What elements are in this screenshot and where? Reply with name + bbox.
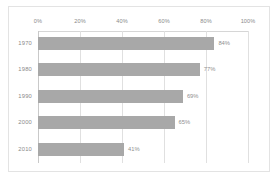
bar-2000 [38, 116, 175, 129]
chart-container: 0%20%40%60%80%100% 197084%198077%199069%… [8, 6, 270, 172]
bar-series: 197084%198077%199069%200065%201041% [38, 31, 248, 163]
x-tick-label: 20% [74, 18, 86, 24]
x-tick-label: 0% [34, 18, 42, 24]
bar-1990 [38, 90, 183, 103]
category-label-1980: 1980 [18, 63, 32, 76]
bar-1970 [38, 37, 214, 50]
plot-area: 0%20%40%60%80%100% 197084%198077%199069%… [38, 31, 248, 163]
bar-row: 198077% [38, 57, 248, 83]
bar-value-label-1980: 77% [200, 63, 216, 76]
bar-value-label-1970: 84% [214, 37, 230, 50]
bar-value-label-2000: 65% [175, 116, 191, 129]
x-tick-label: 40% [116, 18, 128, 24]
category-label-2010: 2010 [18, 143, 32, 156]
bar-1980 [38, 63, 200, 76]
bar-row: 201041% [38, 137, 248, 163]
bar-value-label-1990: 69% [183, 90, 199, 103]
gridline-100% [248, 31, 249, 163]
bar-value-label-2010: 41% [124, 143, 140, 156]
category-label-1990: 1990 [18, 90, 32, 103]
bar-row: 197084% [38, 31, 248, 57]
bar-row: 200065% [38, 110, 248, 136]
bar-row: 199069% [38, 84, 248, 110]
bar-2010 [38, 143, 124, 156]
x-tick-label: 60% [158, 18, 170, 24]
category-label-1970: 1970 [18, 37, 32, 50]
category-label-2000: 2000 [18, 116, 32, 129]
x-tick-label: 80% [200, 18, 212, 24]
x-tick-label: 100% [241, 18, 256, 24]
